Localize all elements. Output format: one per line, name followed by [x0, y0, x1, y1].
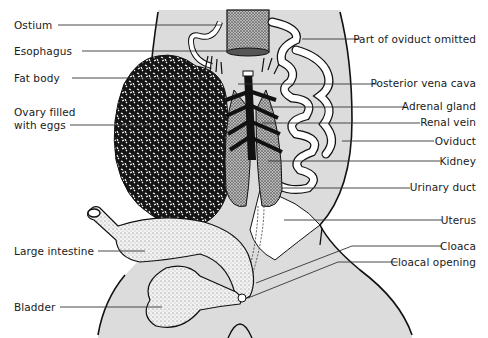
- label-cloaca: Cloaca: [440, 240, 476, 252]
- label-posterior-vena-cava: Posterior vena cava: [370, 77, 476, 89]
- label-bladder: Bladder: [14, 301, 55, 313]
- esophagus-shape: [227, 10, 269, 56]
- label-ostium: Ostium: [14, 19, 52, 31]
- label-ovary-line1: Ovary filled: [14, 106, 76, 118]
- label-esophagus: Esophagus: [14, 45, 72, 57]
- label-part-of-oviduct-omitted: Part of oviduct omitted: [353, 33, 476, 45]
- label-ovary-line2: with eggs: [14, 119, 66, 131]
- label-urinary-duct: Urinary duct: [410, 181, 476, 193]
- label-adrenal-gland: Adrenal gland: [402, 100, 476, 112]
- anatomy-diagram: Ostium Esophagus Fat body Ovary filled w…: [0, 0, 488, 338]
- label-large-intestine: Large intestine: [14, 245, 94, 257]
- label-oviduct: Oviduct: [435, 135, 476, 147]
- label-kidney: Kidney: [440, 155, 476, 167]
- label-uterus: Uterus: [441, 214, 476, 226]
- label-fat-body: Fat body: [14, 72, 60, 84]
- label-renal-vein: Renal vein: [420, 116, 476, 128]
- diagram-artwork: [0, 0, 488, 338]
- ovary-shape: [114, 55, 229, 227]
- label-cloacal-opening: Cloacal opening: [390, 256, 476, 268]
